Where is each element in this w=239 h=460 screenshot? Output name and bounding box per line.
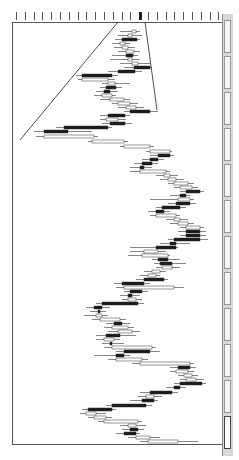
bullish-candle	[100, 98, 130, 101]
bullish-candle	[96, 338, 120, 341]
bullish-candle	[156, 174, 178, 177]
bearish-candle	[116, 350, 160, 353]
bearish-candle	[156, 206, 186, 209]
bullish-candle	[108, 358, 148, 361]
bearish-candle	[148, 210, 170, 213]
bullish-candle	[120, 62, 150, 65]
bullish-candle	[112, 102, 138, 105]
bearish-candle	[168, 238, 208, 241]
bullish-candle	[36, 135, 98, 138]
bearish-candle	[142, 158, 164, 161]
bearish-candle	[122, 428, 144, 431]
bearish-candle	[90, 310, 106, 313]
bullish-candle	[100, 118, 126, 121]
bearish-candle	[170, 366, 196, 369]
bullish-candle	[112, 42, 130, 45]
bearish-candle	[100, 114, 130, 117]
bullish-candle	[98, 420, 142, 423]
bullish-candle	[88, 416, 112, 419]
bullish-candle	[114, 46, 135, 49]
bearish-candle	[166, 386, 186, 389]
bullish-candle	[104, 326, 134, 329]
bullish-candle	[120, 145, 154, 148]
bullish-candle	[120, 30, 140, 33]
bullish-candle	[168, 182, 194, 185]
bearish-candle	[130, 246, 178, 249]
bearish-candle	[174, 382, 206, 385]
bearish-candle	[136, 278, 168, 281]
bearish-candle	[76, 74, 118, 77]
bearish-candle	[100, 86, 122, 89]
bearish-candle	[124, 110, 158, 113]
bullish-candle	[140, 440, 198, 443]
bearish-candle	[34, 130, 92, 133]
bearish-candle	[178, 230, 206, 233]
bullish-candle	[144, 270, 166, 273]
bearish-candle	[150, 154, 174, 157]
bullish-candle	[170, 370, 194, 373]
bullish-candle	[94, 94, 116, 97]
bullish-candle	[130, 170, 170, 173]
bearish-candle	[82, 408, 116, 411]
bearish-candle	[96, 302, 144, 305]
bearish-candle	[94, 354, 130, 357]
bearish-candle	[134, 162, 158, 165]
bearish-candle	[56, 126, 112, 129]
bearish-candle	[170, 194, 190, 197]
bearish-candle	[96, 90, 118, 93]
bullish-candle	[166, 218, 188, 221]
bearish-candle	[152, 258, 180, 261]
bullish-candle	[102, 82, 130, 85]
bearish-candle	[154, 262, 186, 265]
bullish-candle	[150, 214, 180, 217]
bearish-candle	[124, 290, 148, 293]
bearish-candle	[168, 202, 196, 205]
bearish-candle	[96, 334, 136, 337]
bullish-candle	[156, 266, 180, 269]
bullish-candle	[130, 250, 166, 253]
bullish-candle	[128, 254, 170, 257]
bullish-candle	[118, 34, 142, 37]
bullish-candle	[92, 318, 126, 321]
bullish-candle	[116, 286, 184, 289]
bearish-candle	[112, 54, 138, 57]
bearish-candle	[140, 391, 178, 394]
bearish-candle	[160, 242, 190, 245]
bearish-candle	[130, 399, 158, 402]
bullish-candle	[128, 436, 160, 439]
bullish-candle	[140, 274, 160, 277]
bullish-candle	[120, 424, 146, 427]
bearish-candle	[180, 234, 206, 237]
bullish-candle	[146, 150, 172, 153]
bullish-candle	[170, 222, 194, 225]
bullish-candle	[180, 226, 204, 229]
bullish-candle	[104, 346, 156, 349]
bearish-candle	[106, 404, 152, 407]
bearish-candle	[180, 190, 204, 193]
bullish-candle	[150, 198, 194, 201]
bearish-candle	[108, 70, 142, 73]
bullish-candle	[84, 314, 108, 317]
bearish-candle	[120, 294, 140, 297]
bearish-candle	[114, 282, 150, 285]
bearish-candle	[130, 166, 152, 169]
bullish-candle	[160, 178, 184, 181]
bearish-candle	[102, 342, 124, 345]
bullish-candle	[132, 362, 194, 365]
candlestick-chart	[0, 0, 239, 460]
bearish-candle	[116, 432, 140, 435]
bullish-candle	[88, 140, 128, 143]
bullish-candle	[138, 395, 162, 398]
bullish-candle	[110, 58, 140, 61]
bullish-candle	[178, 374, 198, 377]
bearish-candle	[102, 122, 132, 125]
bearish-candle	[86, 306, 110, 309]
bullish-candle	[80, 412, 106, 415]
bullish-candle	[108, 330, 140, 333]
bullish-candle	[180, 378, 204, 381]
bearish-candle	[115, 38, 140, 41]
bullish-candle	[174, 186, 198, 189]
bullish-candle	[118, 50, 140, 53]
bearish-candle	[124, 66, 152, 69]
bullish-candle	[118, 106, 144, 109]
